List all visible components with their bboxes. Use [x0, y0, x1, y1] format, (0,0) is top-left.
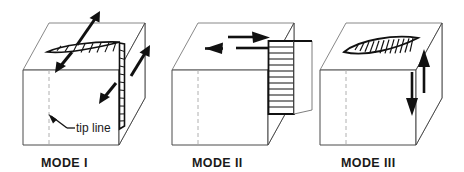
mode-3-label: MODE III	[341, 156, 396, 170]
fracture-modes-figure: tip line MODE I	[0, 0, 464, 172]
mode-2-label: MODE II	[192, 156, 243, 170]
mode-1-right-crack	[120, 43, 125, 129]
mode-3-block-front-face	[320, 70, 416, 145]
mode-1-tip-line-label: tip line	[76, 121, 111, 135]
mode-2-slip-surface	[269, 41, 313, 114]
mode-2-block-front-face	[172, 70, 268, 145]
mode-1-label: MODE I	[41, 156, 88, 170]
